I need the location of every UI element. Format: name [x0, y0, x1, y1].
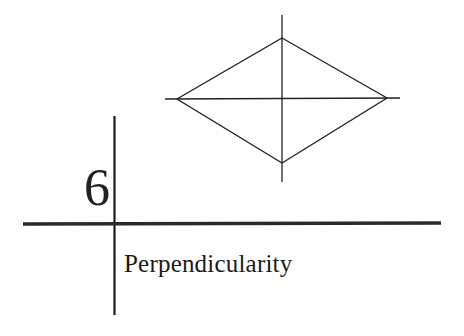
- heading-horizontal-rule: [23, 223, 441, 224]
- chapter-number: 6: [80, 160, 110, 216]
- chapter-title: Perpendicularity: [124, 249, 292, 279]
- horizontal-diagonal: [165, 98, 400, 99]
- rhombus-diagram: [0, 0, 464, 336]
